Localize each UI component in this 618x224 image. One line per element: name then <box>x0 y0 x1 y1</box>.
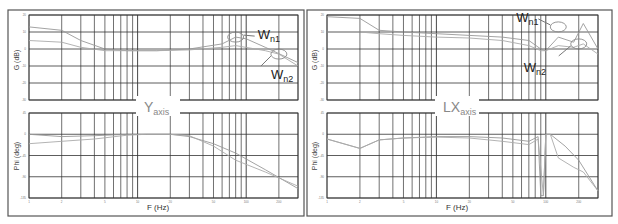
right-gain-ylabel: G (dB) <box>311 50 319 71</box>
right-gain-ytick-label: -10 <box>320 64 325 68</box>
left-gain-ytick-label: -10 <box>22 64 27 68</box>
left-phase-ytick-label: -135 <box>20 196 26 200</box>
right-gain-ytick-label: 0 <box>322 47 324 51</box>
left-xtick-label: 5 <box>104 200 106 204</box>
wn-sub-text: n2 <box>536 67 546 77</box>
right-gain-ytick-label: -30 <box>320 98 325 102</box>
right-wn2-arrow <box>559 46 571 56</box>
left-xtick-label: 2 <box>61 200 63 204</box>
left-wn2-label: Wn2 <box>271 67 293 84</box>
right-xtick-label: 1 <box>326 200 328 204</box>
left-phase-ytick-label: -90 <box>22 175 27 179</box>
right-phase-ytick-label: -135 <box>318 196 324 200</box>
right-phase-ytick-label: 0 <box>322 132 324 136</box>
left-phase-curve-b-line <box>29 134 298 186</box>
axis-name-sub: axis <box>460 107 477 117</box>
left-xlabel: F (Hz) <box>147 203 170 212</box>
right-gain-ytick-label: -20 <box>320 81 325 85</box>
wn-main-text: W <box>516 10 529 25</box>
left-xtick-label: 50 <box>212 200 216 204</box>
right-xtick-label: 20 <box>468 200 472 204</box>
right-xlabel: F (Hz) <box>446 203 469 212</box>
right-phase-ytick-label: 45 <box>321 111 325 115</box>
left-phase-ytick-label: 45 <box>23 111 27 115</box>
left-phase-curve-a-line <box>29 134 298 188</box>
wn-main-text: W <box>258 27 271 42</box>
right-xtick-label: 100 <box>543 200 548 204</box>
left-gain-ytick-label: -30 <box>22 98 27 102</box>
right-phase-ylabel: Phi (deg) <box>311 142 319 170</box>
left-wn1-arrow <box>244 35 255 36</box>
wn-main-text: W <box>271 67 284 82</box>
right-gain-ytick-label: 10 <box>321 30 325 34</box>
right-wn1-arrow <box>538 19 550 25</box>
right-phase-ytick-label: -45 <box>320 154 325 158</box>
left-xtick-label: 20 <box>169 200 173 204</box>
left-gain-ytick-label: -20 <box>22 81 27 85</box>
right-gain-plot-frame <box>327 15 598 100</box>
axis-name-main: LX <box>443 99 461 115</box>
left-phase-ytick-label: -45 <box>22 154 27 158</box>
right-xtick-label: 5 <box>403 200 405 204</box>
left-gain-ylabel: G (dB) <box>13 50 21 71</box>
left-gain-ytick-label: 0 <box>24 47 26 51</box>
wn-sub-text: n1 <box>529 17 539 27</box>
right-xtick-label: 200 <box>576 200 581 204</box>
right-phase-curve-b-line <box>327 134 598 195</box>
wn-sub-text: n1 <box>270 34 280 44</box>
right-phase-ytick-label: -90 <box>320 175 325 179</box>
axis-name-sub: axis <box>153 107 170 117</box>
left-gain-ytick-label: 10 <box>23 30 27 34</box>
left-xtick-label: 10 <box>136 200 140 204</box>
chart-figure: 20100-10-20-30450-45-90-1351251020501002… <box>0 0 618 224</box>
left-gain-ytick-label: 20 <box>23 13 27 17</box>
right-wn1-marker <box>550 22 566 32</box>
right-gain-ytick-label: 20 <box>321 13 325 17</box>
right-xtick-label: 10 <box>435 200 439 204</box>
right-wn2-label: Wn2 <box>524 60 546 77</box>
left-wn2-arrow <box>261 56 271 66</box>
right-xtick-label: 2 <box>359 200 361 204</box>
wn-sub-text: n2 <box>283 74 293 84</box>
left-xtick-label: 100 <box>244 200 249 204</box>
right-xtick-label: 50 <box>511 200 515 204</box>
right-wn1-label: Wn1 <box>516 10 538 27</box>
left-xtick-label: 1 <box>28 200 30 204</box>
wn-main-text: W <box>524 60 537 75</box>
left-wn1-label: Wn1 <box>258 27 280 44</box>
left-phase-ytick-label: 0 <box>24 132 26 136</box>
left-xtick-label: 200 <box>276 200 281 204</box>
left-phase-ylabel: Phi (deg) <box>13 142 21 170</box>
right-phase-curve-a-line <box>327 134 598 195</box>
